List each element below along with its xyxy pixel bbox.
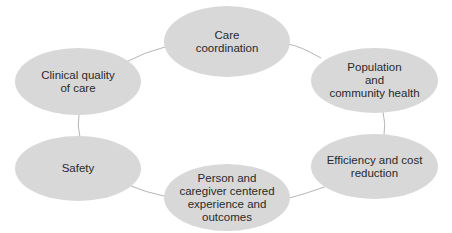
node-label: Population and community health [329, 61, 419, 100]
edge-safety-to-clinical [78, 115, 80, 137]
node-safety: Safety [15, 136, 141, 201]
node-efficiency-cost: Efficiency and cost reduction [311, 134, 438, 199]
edge-clinical-to-care [126, 47, 165, 62]
node-label: Care coordination [196, 29, 259, 55]
edge-efficiency-to-person [289, 186, 327, 198]
node-label: Person and caregiver centered experience… [179, 172, 274, 224]
node-care-coordination: Care coordination [164, 6, 290, 77]
node-label: Efficiency and cost reduction [327, 154, 423, 180]
edge-person-to-safety [131, 186, 164, 196]
edge-care-to-population [288, 44, 321, 58]
node-label: Clinical quality of care [41, 69, 115, 95]
node-person-caregiver: Person and caregiver centered experience… [164, 164, 290, 231]
node-population-health: Population and community health [311, 48, 438, 113]
node-label: Safety [62, 162, 95, 175]
edge-population-to-efficiency [383, 112, 385, 135]
node-clinical-quality: Clinical quality of care [15, 48, 141, 115]
